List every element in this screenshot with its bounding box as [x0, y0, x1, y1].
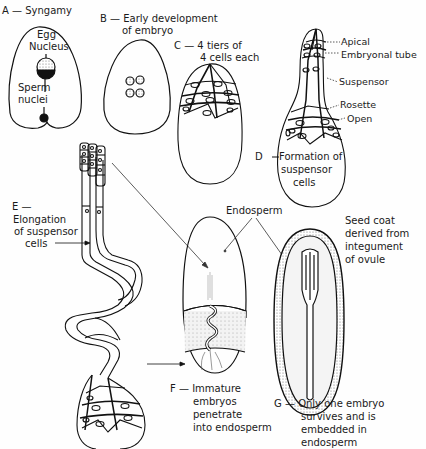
panel-g-letter: G [274, 398, 282, 409]
panel-e-title-2: of suspensor [14, 226, 78, 238]
dash: — [12, 5, 22, 16]
panel-c-letter: C [174, 40, 181, 51]
panel-g-drawing [274, 229, 344, 415]
panel-a-letter: A [2, 5, 9, 16]
panel-f-drawing [183, 217, 246, 373]
panel-d-title-1: Formation of [279, 151, 342, 163]
open-label: Open [347, 113, 372, 125]
panel-b-title-text: Early development [123, 13, 217, 24]
panel-e-arrow [55, 241, 90, 245]
seed-coat-label-2: derived from [345, 228, 409, 240]
panel-f-title-2: embryos [193, 396, 237, 408]
e-to-f-bottom-arrow [147, 362, 185, 366]
panel-c-title-text: 4 tiers of [197, 40, 242, 51]
endosperm-label: Endosperm [226, 205, 283, 217]
embryonal-tube-label: Embryonal tube [341, 49, 417, 61]
apical-label: Apical [341, 36, 370, 48]
panel-g-title-3: embedded in [301, 424, 367, 436]
sperm-nuclei-label-2: nuclei [18, 94, 48, 106]
seed-coat-label-1: Seed coat [345, 215, 395, 227]
e-to-f-arrow [112, 163, 208, 268]
dash: — [22, 201, 32, 212]
panel-c-title-1: C — 4 tiers of [174, 40, 242, 52]
panel-a-title-text: Syngamy [25, 5, 72, 16]
panel-f-title-text: Immature [192, 383, 241, 394]
panel-c-title-2: 4 cells each [200, 52, 259, 64]
panel-g-title-4: endosperm [301, 437, 357, 449]
panel-b-letter: B [100, 13, 107, 24]
seed-coat-label-3: integument [345, 241, 403, 253]
panel-e-title-1: Elongation [13, 214, 66, 226]
dash: — [285, 398, 295, 409]
panel-f-letter: F [170, 383, 176, 394]
embryo-development-diagram: A — Syngamy Egg Nucleus Sperm nuclei B —… [0, 0, 426, 449]
seed-coat-label-4: of ovule [345, 254, 385, 266]
panel-b-title-2: of embryo [122, 25, 173, 37]
panel-f-title-3: penetrate [193, 409, 242, 421]
panel-d-letter: D [255, 151, 263, 163]
dash: — [110, 13, 120, 24]
egg-nucleus-label-1: Egg [37, 29, 56, 41]
panel-e-drawing [65, 143, 145, 449]
panel-d-title-3: cells [293, 177, 315, 189]
panel-a-title: A — Syngamy [2, 5, 72, 17]
rosette-label: Rosette [340, 99, 376, 111]
panel-e-letter-text: E [12, 201, 18, 212]
suspensor-label: Suspensor [339, 76, 389, 88]
panel-c-drawing [178, 64, 242, 184]
panel-b-title-1: B — Early development [100, 13, 218, 25]
sperm-nuclei-label-1: Sperm [18, 82, 51, 94]
panel-b-drawing [104, 40, 170, 134]
dash: — [179, 383, 189, 394]
panel-f-title-1: F — Immature [170, 383, 241, 395]
panel-g-title-2: survives and is [301, 411, 376, 423]
panel-e-letter: E — [12, 201, 32, 213]
egg-nucleus-label-2: Nucleus [29, 41, 69, 53]
panel-d-title-2: suspensor [281, 164, 332, 176]
panel-f-title-4: into endosperm [193, 422, 272, 434]
panel-g-title-text: Only one embryo [298, 398, 384, 409]
panel-g-title-1: G — Only one embryo [274, 398, 384, 410]
panel-e-title-3: cells [25, 238, 47, 250]
dash: — [184, 40, 194, 51]
